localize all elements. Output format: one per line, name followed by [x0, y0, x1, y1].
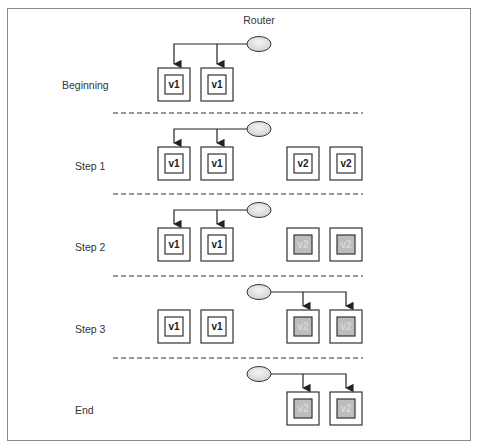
- svg-text:v2: v2: [297, 321, 309, 332]
- svg-text:v1: v1: [211, 79, 223, 90]
- svg-text:v2: v2: [340, 403, 352, 414]
- instance-box-v2-highlighted: v2: [330, 228, 362, 261]
- instance-box-v2-highlighted: v2: [330, 310, 362, 343]
- router-icon: [247, 203, 271, 218]
- blue-green-deployment-diagram: Router Beginning Step 1 Step 2 Step 3 En…: [0, 0, 478, 448]
- router-icon: [247, 367, 271, 382]
- instance-box-v1: v1: [201, 147, 233, 180]
- router-icon: [247, 37, 271, 52]
- row-beginning: v1 v1: [158, 37, 271, 102]
- row-dividers: [113, 113, 363, 358]
- svg-text:v2: v2: [297, 239, 309, 250]
- instance-box-v2: v2: [330, 147, 362, 180]
- svg-text:v2: v2: [297, 403, 309, 414]
- row-label-beginning: Beginning: [62, 79, 109, 91]
- svg-text:v1: v1: [168, 239, 180, 250]
- row-label-step-1: Step 1: [75, 160, 106, 172]
- row-end: v2 v2: [247, 367, 362, 426]
- instance-box-v1: v1: [158, 310, 190, 343]
- svg-text:v1: v1: [211, 321, 223, 332]
- router-title: Router: [243, 14, 275, 26]
- instance-box-v1: v1: [201, 228, 233, 261]
- svg-text:v2: v2: [340, 239, 352, 250]
- route-arrow: [174, 129, 247, 143]
- row-step-3: v1 v1 v2 v2: [158, 285, 362, 344]
- row-step-2: v1 v1 v2 v2: [158, 203, 362, 262]
- svg-text:v1: v1: [168, 158, 180, 169]
- instance-box-v1: v1: [158, 228, 190, 261]
- route-arrow: [174, 210, 247, 224]
- svg-text:v1: v1: [211, 158, 223, 169]
- router-icon: [247, 122, 271, 137]
- route-arrow: [174, 44, 247, 64]
- instance-box-v2-highlighted: v2: [287, 310, 319, 343]
- svg-text:v1: v1: [168, 79, 180, 90]
- route-arrow: [271, 374, 346, 388]
- instance-box-v2-highlighted: v2: [287, 228, 319, 261]
- instance-box-v2-highlighted: v2: [330, 392, 362, 425]
- row-label-step-3: Step 3: [75, 323, 106, 335]
- route-arrow: [271, 292, 346, 306]
- svg-text:v2: v2: [297, 158, 309, 169]
- svg-text:v2: v2: [340, 321, 352, 332]
- instance-box-v2: v2: [287, 147, 319, 180]
- svg-text:v1: v1: [168, 321, 180, 332]
- instance-box-v1: v1: [158, 147, 190, 180]
- row-label-step-2: Step 2: [75, 241, 106, 253]
- instance-box-v1: v1: [201, 310, 233, 343]
- svg-text:v1: v1: [211, 239, 223, 250]
- row-step-1: v1 v1 v2 v2: [158, 122, 362, 181]
- instance-box-v2-highlighted: v2: [287, 392, 319, 425]
- instance-box-v1: v1: [201, 68, 233, 101]
- svg-text:v2: v2: [340, 158, 352, 169]
- instance-box-v1: v1: [158, 68, 190, 101]
- router-icon: [247, 285, 271, 300]
- row-label-end: End: [75, 404, 94, 416]
